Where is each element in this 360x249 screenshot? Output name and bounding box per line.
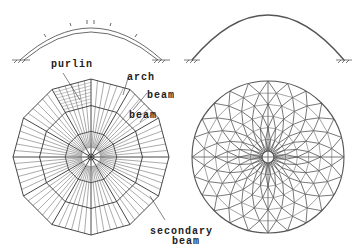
structure-drawing (0, 0, 360, 249)
figure-canvas: purlin arch beam beam secondary beam (0, 0, 360, 249)
left-elevation-arch (20, 20, 162, 60)
label-beam-inner: beam (129, 111, 157, 121)
support-icon (184, 60, 352, 63)
label-beam-outer: beam (147, 91, 175, 101)
lattice-dome-plan (192, 81, 344, 233)
right-elevation-arch (192, 15, 344, 60)
label-secondary-beam: beam (172, 237, 200, 247)
label-arch: arch (127, 73, 155, 83)
ribbed-dome-plan (13, 79, 169, 235)
label-purlin: purlin (51, 60, 93, 70)
